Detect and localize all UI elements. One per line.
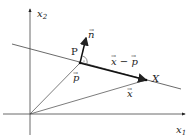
label-x-minus-p: x − p → → xyxy=(111,52,138,67)
svg-text:→: → xyxy=(127,85,132,92)
vector-n xyxy=(80,38,86,63)
label-p: p → xyxy=(73,69,80,83)
point-P xyxy=(79,62,82,65)
label-x: x → xyxy=(127,85,133,99)
x2-axis-label: x2 xyxy=(37,8,48,21)
x1-axis-label: x1 xyxy=(176,124,186,137)
svg-text:→: → xyxy=(131,52,136,59)
hesse-normal-form-diagram: x2 x1 P X n → p → x → x − p → → xyxy=(0,0,193,139)
label-n: n → xyxy=(88,26,94,40)
label-X: X xyxy=(151,73,160,84)
point-X xyxy=(145,79,148,82)
svg-text:→: → xyxy=(73,69,78,76)
label-P: P xyxy=(71,46,78,57)
svg-text:→: → xyxy=(111,52,116,59)
svg-text:→: → xyxy=(89,26,94,33)
